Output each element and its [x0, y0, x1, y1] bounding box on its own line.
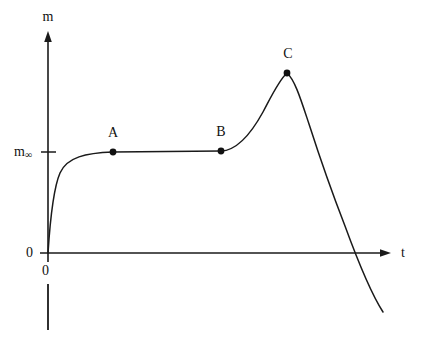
growth-decay-curve	[48, 73, 383, 312]
point-b-label: B	[216, 125, 225, 139]
m-infinity-base: m	[14, 144, 25, 159]
point-c-label: C	[283, 47, 292, 61]
data-point-c	[284, 70, 291, 77]
m-infinity-label: m∞	[14, 145, 32, 160]
x-axis-arrow-icon	[380, 249, 391, 257]
infinity-subscript: ∞	[25, 149, 32, 160]
data-point-b	[218, 148, 225, 155]
y-axis-arrow-icon	[44, 31, 52, 42]
figure-canvas: m m∞ A B C 0 0 t	[0, 0, 424, 343]
x-axis-label: t	[401, 246, 405, 260]
y-axis-label: m	[43, 10, 54, 24]
data-point-a	[110, 149, 117, 156]
origin-label-horizontal: 0	[42, 264, 49, 278]
point-a-label: A	[108, 126, 118, 140]
plot-svg	[0, 0, 424, 343]
origin-label-vertical: 0	[26, 246, 33, 260]
